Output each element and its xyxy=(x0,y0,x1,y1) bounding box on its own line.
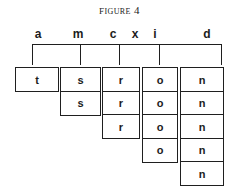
box-column-i: oooo xyxy=(142,67,178,163)
box-column-m: ss xyxy=(60,67,101,116)
box-cell: n xyxy=(180,161,224,186)
box-cell: n xyxy=(180,114,224,139)
box-column-a: t xyxy=(15,67,59,92)
bracket-tick-i xyxy=(159,44,160,65)
box-cell: n xyxy=(180,67,224,92)
bracket-tick-m xyxy=(80,44,81,65)
box-cell: t xyxy=(15,67,59,92)
column-label-c: c xyxy=(110,27,117,41)
box-cell: o xyxy=(142,67,178,92)
bracket-tick-c xyxy=(119,44,120,65)
bracket-tick-d xyxy=(221,44,222,65)
rail-line xyxy=(32,44,222,45)
box-cell: s xyxy=(60,67,101,92)
box-column-c: rrr xyxy=(102,67,140,139)
column-label-i: i xyxy=(153,27,156,41)
column-label-x: x xyxy=(132,27,139,41)
bracket-tick-a xyxy=(32,44,33,65)
column-label-d: d xyxy=(203,27,210,41)
figure-title: Figure 4 xyxy=(0,3,239,18)
figure-diagram: Figure 4 amcxid tssrrroooonnnnn xyxy=(0,0,239,194)
box-cell: r xyxy=(102,114,140,139)
box-cell: o xyxy=(142,138,178,163)
column-label-m: m xyxy=(73,27,84,41)
box-cell: s xyxy=(60,91,101,116)
box-columns: tssrrroooonnnnn xyxy=(0,67,239,194)
box-cell: r xyxy=(102,91,140,116)
bracket-rail xyxy=(0,44,239,66)
column-label-a: a xyxy=(35,27,42,41)
box-cell: o xyxy=(142,114,178,139)
box-cell: n xyxy=(180,138,224,163)
column-label-row: amcxid xyxy=(0,27,239,42)
box-cell: r xyxy=(102,67,140,92)
box-column-d: nnnnn xyxy=(180,67,224,186)
box-cell: n xyxy=(180,91,224,116)
box-cell: o xyxy=(142,91,178,116)
